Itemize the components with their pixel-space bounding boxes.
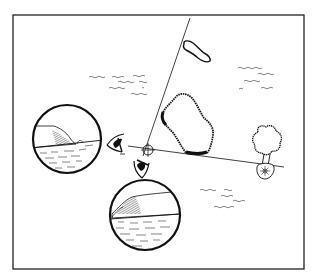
- eye-icon: [107, 134, 125, 154]
- large-island: [162, 94, 213, 154]
- view-circle-south: [110, 180, 180, 250]
- navigation-diagram: [0, 0, 315, 280]
- eye-icon: [134, 160, 149, 178]
- sun-compass-icon: [257, 163, 274, 179]
- view-circle-west: [30, 105, 104, 173]
- small-island: [183, 41, 210, 62]
- tree-landmark: [253, 126, 282, 166]
